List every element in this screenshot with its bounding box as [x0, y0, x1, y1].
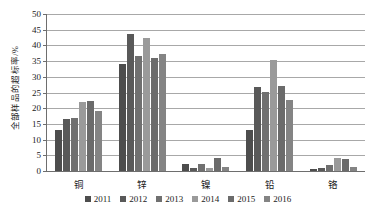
bar-镍-2013 [198, 164, 205, 171]
legend-swatch-icon [120, 196, 126, 202]
bar-锌-2012 [127, 34, 134, 171]
legend-item-2014[interactable]: 2014 [192, 194, 219, 204]
bar-铬-2016 [350, 167, 357, 171]
bar-锌-2011 [119, 64, 126, 171]
y-tick-label-15: 15 [32, 119, 41, 129]
y-tick-mark [43, 171, 47, 172]
legend-label: 2012 [129, 194, 147, 204]
bar-铅-2014 [270, 60, 277, 171]
bar-铜-2015 [87, 101, 94, 171]
legend-item-2011[interactable]: 2011 [85, 194, 112, 204]
x-axis-label-镍: 镍 [174, 177, 238, 191]
legend-label: 2016 [273, 194, 291, 204]
bar-镍-2016 [222, 167, 229, 171]
bar-镍-2011 [182, 164, 189, 171]
y-axis-title: 全部样品的超标率/% [8, 18, 20, 158]
x-axis-label-铅: 铅 [238, 177, 302, 191]
y-tick-label-20: 20 [32, 103, 41, 113]
legend-item-2016[interactable]: 2016 [264, 194, 291, 204]
bar-镍-2012 [190, 168, 197, 171]
legend-label: 2011 [94, 194, 112, 204]
legend-item-2012[interactable]: 2012 [120, 194, 147, 204]
bar-锌-2014 [143, 38, 150, 171]
bar-铜-2014 [79, 102, 86, 171]
x-axis-label-铜: 铜 [47, 177, 111, 191]
bar-铜-2016 [95, 111, 102, 171]
bar-锌-2013 [135, 56, 142, 171]
y-tick-label-50: 50 [32, 9, 41, 19]
y-tick-label-10: 10 [32, 135, 41, 145]
legend-label: 2013 [165, 194, 183, 204]
y-tick-label-30: 30 [32, 72, 41, 82]
bar-group-锌: 锌 [111, 14, 175, 171]
bar-铬-2014 [334, 158, 341, 171]
bar-group-铜: 铜 [47, 14, 111, 171]
bar-铅-2013 [262, 92, 269, 171]
bar-铬-2013 [326, 165, 333, 171]
bar-group-镍: 镍 [174, 14, 238, 171]
bar-铅-2011 [246, 130, 253, 171]
y-tick-label-25: 25 [32, 88, 41, 98]
bar-铜-2011 [55, 130, 62, 171]
legend-label: 2015 [237, 194, 255, 204]
legend-label: 2014 [201, 194, 219, 204]
bar-铅-2016 [286, 100, 293, 171]
y-tick-label-40: 40 [32, 40, 41, 50]
bar-铬-2015 [342, 159, 349, 171]
bar-铜-2013 [71, 118, 78, 171]
grouped-bar-chart: 全部样品的超标率/% 05101520253035404550 铜锌镍铅铬 20… [0, 0, 376, 217]
legend: 201120122013201420152016 [0, 194, 376, 204]
bar-铅-2012 [254, 87, 261, 171]
bar-镍-2014 [206, 168, 213, 171]
bar-group-铬: 铬 [301, 14, 365, 171]
legend-swatch-icon [192, 196, 198, 202]
x-axis-label-锌: 锌 [111, 177, 175, 191]
x-axis-label-铬: 铬 [301, 177, 365, 191]
bar-group-铅: 铅 [238, 14, 302, 171]
bar-铅-2015 [278, 86, 285, 171]
y-tick-label-5: 5 [37, 150, 42, 160]
bar-锌-2015 [151, 58, 158, 171]
plot-area: 05101520253035404550 铜锌镍铅铬 [46, 14, 365, 172]
y-tick-label-35: 35 [32, 56, 41, 66]
legend-swatch-icon [156, 196, 162, 202]
legend-item-2013[interactable]: 2013 [156, 194, 183, 204]
legend-swatch-icon [228, 196, 234, 202]
bar-铬-2011 [310, 169, 317, 171]
bars-layer: 铜锌镍铅铬 [47, 14, 365, 171]
bar-铬-2012 [318, 168, 325, 171]
legend-swatch-icon [85, 196, 91, 202]
legend-swatch-icon [264, 196, 270, 202]
legend-item-2015[interactable]: 2015 [228, 194, 255, 204]
bar-镍-2015 [214, 158, 221, 171]
y-tick-label-45: 45 [32, 25, 41, 35]
bar-铜-2012 [63, 119, 70, 171]
y-tick-label-0: 0 [37, 166, 42, 176]
bar-锌-2016 [159, 54, 166, 171]
